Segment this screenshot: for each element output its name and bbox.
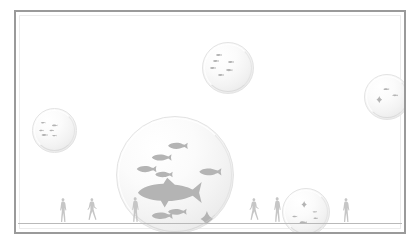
human-1 [58,198,68,224]
bubble-top-center-fish-4 [226,69,233,71]
bubble-top-center-fish-5 [218,74,224,76]
bubble-large-center-fish-2 [137,166,157,172]
bubble-left-fish-2 [39,130,44,132]
bubble-bottom-right-fish-1 [312,211,317,213]
human-4 [249,198,259,224]
scene-canvas [0,0,419,246]
bubble-left-fish-3 [49,130,54,132]
bubble-left-fish-1 [52,125,58,127]
bubble-top-center-fish-0 [216,54,222,56]
diagram-frame [14,10,406,234]
bubble-top-right-ray-2 [376,96,382,103]
bubble-large-center-fish-6 [152,212,173,219]
bubble-left-fish-5 [52,135,57,137]
bubble-left-contents [33,109,76,152]
bubble-large-center-fish-3 [155,172,172,178]
bubble-top-right-fish-1 [392,94,398,96]
ground-line [18,223,402,224]
human-7 [403,196,406,224]
bubble-left-fish-4 [42,134,48,136]
bubble-bottom-right-fish-2 [292,216,297,218]
human-5 [272,197,283,224]
bubble-large-center-fish-0 [168,143,188,149]
bubble-top-right-contents [365,75,406,119]
bubble-top-center-fish-3 [210,67,216,69]
bubble-top-center-fish-1 [213,60,219,62]
human-3 [130,197,141,224]
bubble-bottom-right-fish-3 [313,218,318,220]
bubble-top-right [364,74,406,120]
bubble-large-center-fish-large-5 [138,178,202,208]
bubble-left [32,108,77,153]
bubble-top-center [202,42,254,94]
bubble-large-center-fish-1 [152,154,172,160]
bubble-top-right-fish-0 [383,88,389,90]
bubble-bottom-right-ray-0 [301,201,307,208]
human-6 [341,198,351,224]
bubble-top-center-fish-2 [228,61,234,63]
bubble-left-fish-0 [41,122,46,124]
bubble-large-center-ray-8 [201,211,214,227]
bubble-large-center-fish-4 [199,168,221,175]
bubble-bottom-right-contents [283,189,329,234]
bubble-top-center-contents [203,43,253,93]
bubble-bottom-right [282,188,330,234]
human-2 [87,198,97,224]
